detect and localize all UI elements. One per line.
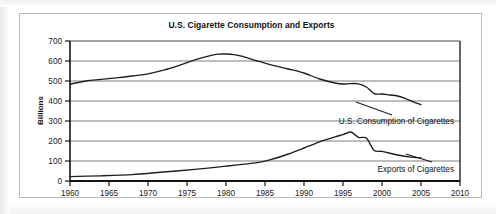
y-tick-label-400: 400 (48, 97, 62, 106)
y-tick-label-100: 100 (48, 157, 62, 166)
line-chart-plot: 700 600 500 400 300 200 100 0 (20, 14, 483, 199)
x-tick-label-1975: 1975 (178, 189, 197, 198)
y-tick-label-200: 200 (48, 137, 62, 146)
series-annotation-consumption: U.S. Consumption of Cigarettes (339, 117, 454, 126)
series-line-exports (70, 132, 421, 177)
x-tick-label-1970: 1970 (139, 189, 158, 198)
x-tick-label-2010: 2010 (451, 189, 470, 198)
series-line-consumption (70, 54, 421, 105)
scan-edge-artifact-left (0, 0, 9, 214)
x-tick-label-2005: 2005 (412, 189, 431, 198)
x-tick-label-2000: 2000 (373, 189, 392, 198)
scan-edge-artifact-top (0, 0, 496, 7)
figure-panel: U.S. Cigarette Consumption and Exports B… (19, 13, 482, 198)
y-tick-label-600: 600 (48, 57, 62, 66)
x-tick-label-1990: 1990 (295, 189, 314, 198)
x-tick-label-1960: 1960 (61, 189, 80, 198)
y-tick-label-300: 300 (48, 117, 62, 126)
y-tick-label-0: 0 (57, 177, 62, 186)
series-annotation-exports: Exports of Cigarettes (378, 165, 454, 174)
scan-edge-artifact-bottom (9, 204, 496, 214)
x-tick-label-1965: 1965 (100, 189, 119, 198)
x-tick-label-1995: 1995 (334, 189, 353, 198)
screenshot-page: U.S. Cigarette Consumption and Exports B… (0, 0, 496, 214)
x-tick-label-1985: 1985 (256, 189, 275, 198)
y-tick-label-500: 500 (48, 77, 62, 86)
consumption-label-leader-line (356, 102, 392, 115)
y-tick-label-700: 700 (48, 37, 62, 46)
x-tick-label-1980: 1980 (217, 189, 236, 198)
gridlines-horizontal (70, 41, 460, 161)
